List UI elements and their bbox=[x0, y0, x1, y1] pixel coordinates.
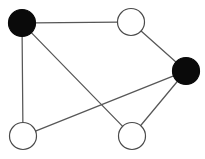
graph-edge bbox=[22, 35, 23, 124]
edge-layer bbox=[22, 22, 178, 131]
graph-figure bbox=[0, 0, 205, 159]
graph-edge bbox=[30, 32, 123, 128]
graph-node-hollow[interactable] bbox=[119, 123, 146, 150]
graph-edge bbox=[34, 22, 119, 23]
graph-canvas bbox=[0, 0, 205, 159]
graph-node-filled[interactable] bbox=[173, 58, 200, 85]
graph-edge bbox=[140, 30, 177, 63]
graph-node-filled[interactable] bbox=[9, 10, 36, 37]
graph-node-hollow[interactable] bbox=[10, 123, 37, 150]
graph-node-hollow[interactable] bbox=[118, 9, 145, 36]
graph-edge bbox=[34, 75, 175, 131]
node-layer bbox=[9, 9, 200, 150]
